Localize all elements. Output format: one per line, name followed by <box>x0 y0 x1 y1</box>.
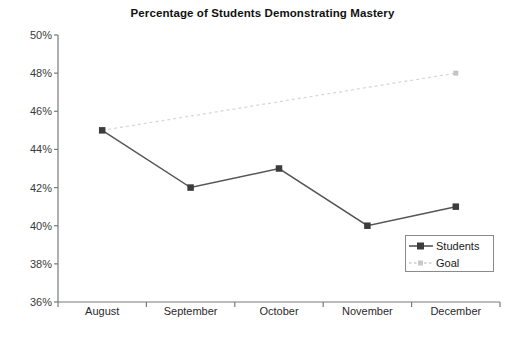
x-axis-tick-labels: AugustSeptemberOctoberNovemberDecember <box>0 305 525 329</box>
series-students <box>99 127 459 229</box>
series-line <box>102 130 456 225</box>
x-axis-tick-label: August <box>85 305 119 317</box>
legend-item-students[interactable]: Students <box>406 237 495 254</box>
legend-marker-students-icon <box>406 239 436 253</box>
x-axis-tick-label: December <box>430 305 481 317</box>
data-point-marker[interactable] <box>276 165 283 172</box>
legend-item-goal[interactable]: Goal <box>406 254 495 271</box>
data-point-marker[interactable] <box>453 203 460 210</box>
series-line <box>102 73 456 130</box>
series-goal <box>100 71 459 133</box>
legend-label-goal: Goal <box>436 256 459 270</box>
data-point-marker[interactable] <box>187 184 194 191</box>
x-axis-tick-label: November <box>342 305 393 317</box>
plot-area <box>0 0 525 340</box>
x-axis-tick-label: September <box>164 305 218 317</box>
chart-container: Percentage of Students Demonstrating Mas… <box>0 0 525 340</box>
legend-marker-goal-icon <box>406 256 436 270</box>
data-point-marker[interactable] <box>453 71 458 76</box>
data-point-marker[interactable] <box>364 222 371 229</box>
chart-legend: Students Goal <box>405 235 494 272</box>
legend-label-students: Students <box>436 239 479 253</box>
x-axis-tick-label: October <box>259 305 298 317</box>
data-point-marker[interactable] <box>99 127 106 134</box>
